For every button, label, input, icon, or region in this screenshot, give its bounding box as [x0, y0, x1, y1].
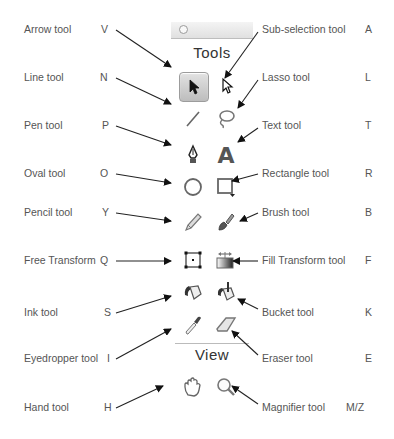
rectangle-icon [215, 175, 237, 199]
view-section-divider [175, 343, 249, 344]
label-pen-tool: Pen tool [24, 119, 63, 131]
ink-bottle-icon [182, 281, 204, 303]
label-oval-tool: Oval tool [24, 167, 65, 179]
hand-icon [182, 376, 204, 398]
brush-tool-button[interactable] [213, 209, 239, 235]
key-rectangle-tool: R [365, 167, 373, 179]
arrow-line-pen-tool [116, 126, 171, 145]
paint-bucket-icon [215, 280, 237, 304]
palette-close-icon[interactable] [179, 25, 188, 34]
tools-section-title: Tools [171, 44, 253, 61]
arrow-tool-button[interactable] [179, 72, 209, 102]
key-ink-tool: S [104, 306, 111, 318]
label-eyedropper-tool: Eyedropper tool [24, 352, 98, 364]
subselection-arrow-icon [219, 77, 235, 95]
hand-tool-button[interactable] [180, 374, 206, 400]
pencil-icon [182, 211, 204, 233]
arrow-line-eyedropper-tool [116, 329, 171, 359]
eyedropper-icon [182, 313, 204, 337]
arrow-line-hand-tool [116, 386, 163, 408]
label-line-tool: Line tool [24, 71, 64, 83]
subselection-tool-button[interactable] [214, 73, 240, 99]
arrow-line-ink-tool [116, 296, 171, 313]
magnifier-icon [215, 376, 237, 398]
pen-tool-button[interactable] [180, 142, 206, 168]
free-transform-icon [182, 249, 204, 271]
eyedropper-tool-button[interactable] [180, 312, 206, 338]
magnifier-tool-button[interactable] [213, 374, 239, 400]
lasso-tool-button[interactable] [213, 106, 239, 132]
label-arrow-tool: Arrow tool [24, 23, 71, 35]
lasso-icon [215, 108, 237, 130]
brush-icon [215, 211, 237, 233]
oval-icon [182, 176, 204, 198]
key-free-transform: Q [100, 254, 108, 266]
label-bucket-tool: Bucket tool [262, 306, 314, 318]
eraser-tool-button[interactable] [213, 312, 239, 338]
view-section-title: View [171, 346, 253, 363]
line-tool-button[interactable] [180, 106, 206, 132]
key-pencil-tool: Y [102, 206, 109, 218]
bucket-tool-button[interactable] [213, 279, 239, 305]
label-text-tool: Text tool [262, 119, 301, 131]
label-ink-tool: Ink tool [24, 306, 58, 318]
arrow-line-line-tool [116, 78, 171, 104]
label-fill-transform-tool: Fill Transform tool [262, 254, 345, 266]
key-oval-tool: O [100, 167, 108, 179]
arrow-line-arrow-tool [116, 30, 171, 67]
label-hand-tool: Hand tool [24, 401, 69, 413]
arrow-line-oval-tool [116, 174, 171, 183]
pencil-tool-button[interactable] [180, 209, 206, 235]
line-icon [183, 109, 203, 129]
oval-tool-button[interactable] [180, 174, 206, 200]
key-brush-tool: B [365, 206, 372, 218]
label-lasso-tool: Lasso tool [262, 71, 310, 83]
key-magnifier-tool: M/Z [346, 401, 364, 413]
key-subselection-tool: A [365, 23, 372, 35]
label-magnifier-tool: Magnifier tool [262, 401, 325, 413]
key-pen-tool: P [102, 119, 109, 131]
label-eraser-tool: Eraser tool [262, 352, 313, 364]
tool-palette: Tools A [171, 22, 253, 412]
eraser-icon [214, 314, 238, 336]
label-free-transform: Free Transform [24, 254, 96, 266]
label-pencil-tool: Pencil tool [24, 206, 72, 218]
pen-nib-icon [184, 144, 202, 166]
key-bucket-tool: K [365, 306, 372, 318]
rectangle-tool-button[interactable] [213, 174, 239, 200]
key-arrow-tool: V [101, 23, 108, 35]
free-transform-tool-button[interactable] [180, 247, 206, 273]
fill-transform-tool-button[interactable] [213, 247, 239, 273]
key-hand-tool: H [104, 401, 112, 413]
key-eyedropper-tool: I [107, 352, 110, 364]
key-line-tool: N [100, 71, 108, 83]
arrow-icon [186, 78, 202, 96]
key-fill-transform-tool: F [365, 254, 371, 266]
fill-transform-icon [214, 249, 238, 271]
label-brush-tool: Brush tool [262, 206, 309, 218]
ink-tool-button[interactable] [180, 279, 206, 305]
palette-titlebar[interactable] [171, 22, 253, 39]
label-subselection-tool: Sub-selection tool [262, 23, 345, 35]
key-lasso-tool: L [365, 71, 371, 83]
label-rectangle-tool: Rectangle tool [262, 167, 329, 179]
arrow-line-pencil-tool [116, 213, 171, 221]
text-a-icon: A [217, 143, 234, 168]
text-tool-button[interactable]: A [213, 142, 239, 168]
key-eraser-tool: E [365, 352, 372, 364]
key-text-tool: T [365, 119, 371, 131]
